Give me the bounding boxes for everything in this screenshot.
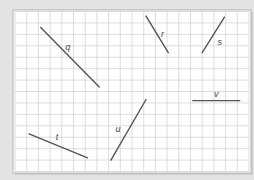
grid-diagram: qrstuv <box>0 0 254 180</box>
segment-label-v: v <box>214 89 219 99</box>
segment-label-u: u <box>115 124 120 134</box>
segment-label-q: q <box>65 42 70 52</box>
segment-label-s: s <box>218 37 223 47</box>
